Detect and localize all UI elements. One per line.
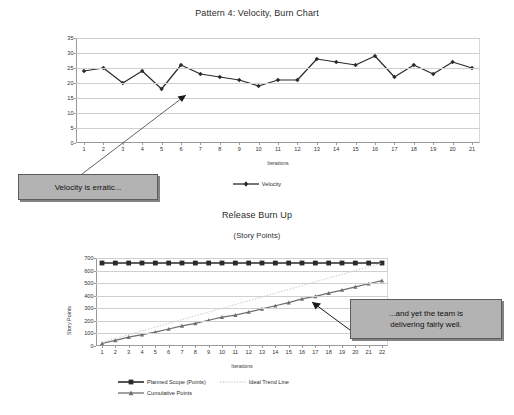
burnup-callout: ...and yet the team is delivering fairly… bbox=[350, 299, 502, 339]
x-axis-tick-mark bbox=[302, 346, 303, 348]
velocity-xaxis-title: Iterations bbox=[76, 160, 480, 166]
burnup-legend-item-ideal: Ideal Trend Line bbox=[220, 378, 289, 386]
y-axis-tick-mark bbox=[94, 321, 96, 322]
x-axis-tick-label: 14 bbox=[333, 146, 339, 152]
x-axis-tick-label: 12 bbox=[246, 349, 252, 355]
x-axis-tick-label: 6 bbox=[179, 146, 182, 152]
x-axis-tick-mark bbox=[235, 346, 236, 348]
x-axis-tick-mark bbox=[123, 143, 124, 145]
x-axis-tick-mark bbox=[275, 346, 276, 348]
x-axis-tick-mark bbox=[317, 143, 318, 145]
x-axis-tick-label: 21 bbox=[366, 349, 372, 355]
x-axis-tick-label: 17 bbox=[391, 146, 397, 152]
data-point-marker bbox=[313, 261, 318, 266]
gridline bbox=[96, 271, 388, 272]
x-axis-tick-mark bbox=[315, 346, 316, 348]
velocity-chart-title: Pattern 4: Velocity, Burn Chart bbox=[0, 8, 514, 18]
data-point-marker bbox=[153, 261, 158, 266]
y-axis-tick-label: 700 bbox=[84, 255, 93, 261]
series-line bbox=[102, 263, 382, 342]
x-axis-tick-mark bbox=[129, 346, 130, 348]
planned-scope-swatch bbox=[118, 378, 144, 386]
x-axis-tick-label: 4 bbox=[141, 146, 144, 152]
x-axis-tick-label: 5 bbox=[154, 349, 157, 355]
gridline bbox=[76, 128, 480, 129]
x-axis-tick-mark bbox=[342, 346, 343, 348]
data-point-marker bbox=[126, 261, 131, 266]
burnup-xaxis-title: Iterations bbox=[96, 363, 388, 369]
x-axis-tick-label: 1 bbox=[100, 349, 103, 355]
burnup-callout-line-1: ...and yet the team is bbox=[389, 308, 463, 319]
x-axis-tick-label: 17 bbox=[312, 349, 318, 355]
x-axis-tick-label: 8 bbox=[194, 349, 197, 355]
x-axis-tick-mark bbox=[209, 346, 210, 348]
ideal-trend-swatch bbox=[220, 378, 246, 386]
data-point-marker bbox=[218, 75, 222, 79]
x-axis-tick-mark bbox=[84, 143, 85, 145]
x-axis-tick-label: 11 bbox=[232, 349, 238, 355]
x-axis-tick-mark bbox=[162, 143, 163, 145]
x-axis-tick-mark bbox=[103, 143, 104, 145]
x-axis-tick-mark bbox=[200, 143, 201, 145]
y-axis-tick-mark bbox=[74, 128, 76, 129]
x-axis-tick-mark bbox=[155, 346, 156, 348]
y-axis-tick-mark bbox=[94, 271, 96, 272]
y-axis-tick-mark bbox=[94, 258, 96, 259]
gridline bbox=[76, 98, 480, 99]
burnup-plot-area: 0100200300400500600700123456789101112131… bbox=[96, 258, 388, 346]
x-axis-tick-label: 1 bbox=[82, 146, 85, 152]
y-axis-tick-mark bbox=[74, 143, 76, 144]
gridline bbox=[96, 308, 388, 309]
data-point-marker bbox=[166, 261, 171, 266]
data-point-marker bbox=[220, 261, 225, 266]
x-axis-tick-label: 21 bbox=[469, 146, 475, 152]
y-axis-tick-mark bbox=[94, 333, 96, 334]
data-point-marker bbox=[140, 261, 145, 266]
y-axis-tick-label: 15 bbox=[67, 95, 73, 101]
data-point-marker bbox=[326, 261, 331, 266]
x-axis-tick-label: 18 bbox=[411, 146, 417, 152]
gridline bbox=[76, 38, 480, 39]
data-point-marker bbox=[198, 72, 202, 76]
velocity-plot-area: 0510152025303512345678910111213141516171… bbox=[76, 38, 480, 143]
velocity-legend-swatch bbox=[233, 180, 259, 188]
x-axis-tick-label: 22 bbox=[379, 349, 385, 355]
x-axis-tick-label: 10 bbox=[255, 146, 261, 152]
x-axis-tick-label: 2 bbox=[102, 146, 105, 152]
x-axis-tick-mark bbox=[195, 346, 196, 348]
gridline bbox=[96, 296, 388, 297]
x-axis-tick-label: 14 bbox=[272, 349, 278, 355]
x-axis-tick-label: 20 bbox=[449, 146, 455, 152]
x-axis-tick-label: 8 bbox=[218, 146, 221, 152]
x-axis-tick-mark bbox=[249, 346, 250, 348]
y-axis-tick-mark bbox=[74, 68, 76, 69]
y-axis-tick-label: 600 bbox=[84, 268, 93, 274]
x-axis-tick-label: 16 bbox=[299, 349, 305, 355]
x-axis-tick-label: 3 bbox=[127, 349, 130, 355]
y-axis-tick-mark bbox=[74, 83, 76, 84]
x-axis-tick-label: 11 bbox=[275, 146, 281, 152]
gridline bbox=[76, 83, 480, 84]
x-axis-tick-mark bbox=[453, 143, 454, 145]
x-axis-tick-label: 13 bbox=[259, 349, 265, 355]
x-axis-tick-mark bbox=[220, 143, 221, 145]
x-axis-tick-mark bbox=[289, 346, 290, 348]
x-axis-tick-mark bbox=[382, 346, 383, 348]
y-axis-tick-mark bbox=[94, 308, 96, 309]
data-point-marker bbox=[260, 261, 265, 266]
x-axis-tick-mark bbox=[142, 143, 143, 145]
burnup-legend-row-2: Cumulative Points bbox=[118, 389, 303, 397]
x-axis-tick-label: 15 bbox=[286, 349, 292, 355]
data-point-marker bbox=[237, 78, 241, 82]
planned-scope-label: Planned Scope (Points) bbox=[147, 379, 206, 385]
x-axis-tick-mark bbox=[375, 143, 376, 145]
burnup-chart-title: Release Burn Up bbox=[0, 210, 514, 220]
data-point-marker bbox=[113, 261, 118, 266]
data-point-marker bbox=[193, 261, 198, 266]
x-axis-tick-mark bbox=[414, 143, 415, 145]
data-point-marker bbox=[100, 261, 105, 266]
x-axis-tick-mark bbox=[336, 143, 337, 145]
x-axis-tick-mark bbox=[169, 346, 170, 348]
y-axis-tick-label: 30 bbox=[67, 50, 73, 56]
slide-canvas: Pattern 4: Velocity, Burn Chart 05101520… bbox=[0, 0, 514, 415]
